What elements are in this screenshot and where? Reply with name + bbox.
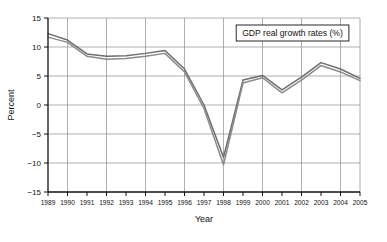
- legend-label: GDP real growth rates (%): [242, 28, 343, 38]
- x-tick-label: 2005: [353, 199, 368, 206]
- x-tick-label: 1990: [60, 199, 75, 206]
- x-tick-label: 1994: [138, 199, 153, 206]
- x-tick-label: 1989: [41, 199, 56, 206]
- y-axis-title: Percent: [6, 89, 16, 121]
- y-tick-label: 5: [37, 72, 42, 81]
- x-tick-label: 1995: [158, 199, 173, 206]
- x-tick-label: 1999: [236, 199, 251, 206]
- chart-legend: GDP real growth rates (%): [236, 25, 349, 41]
- gdp-growth-chart: 151050−5−10−15 1989199019911992199319941…: [0, 0, 387, 242]
- x-axis-title: Year: [195, 214, 213, 224]
- y-tick-label: 0: [37, 101, 42, 110]
- x-tick-label: 2001: [275, 199, 290, 206]
- y-tick-label: 15: [32, 14, 41, 23]
- chart-canvas: 151050−5−10−15 1989199019911992199319941…: [0, 0, 387, 242]
- y-tick-label: −10: [27, 159, 41, 168]
- x-tick-label: 2002: [294, 199, 309, 206]
- x-tick-label: 1996: [177, 199, 192, 206]
- x-tick-label: 1997: [197, 199, 212, 206]
- y-tick-label: 10: [32, 43, 41, 52]
- x-tick-label: 2000: [255, 199, 270, 206]
- x-tick-label: 2003: [314, 199, 329, 206]
- x-tick-label-layer: 1989199019911992199319941995199619971998…: [41, 199, 368, 206]
- x-tick-label: 1998: [216, 199, 231, 206]
- y-tick-label: −5: [32, 130, 42, 139]
- x-tick-label: 2004: [333, 199, 348, 206]
- x-tick-label: 1991: [80, 199, 95, 206]
- x-tick-label: 1992: [99, 199, 114, 206]
- y-tick-label: −15: [27, 188, 41, 197]
- x-tick-label: 1993: [119, 199, 134, 206]
